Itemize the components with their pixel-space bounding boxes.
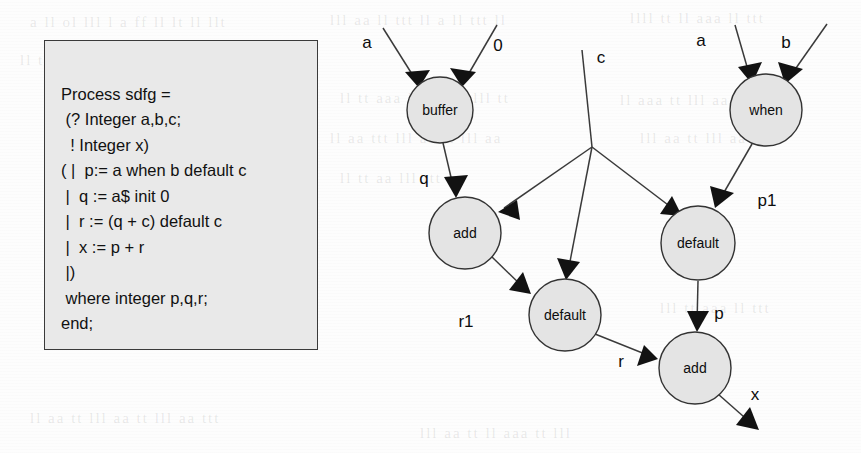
label-input-b-when: b [781, 33, 790, 52]
node-default-middle[interactable]: default [529, 279, 601, 351]
label-signal-q: q [419, 169, 428, 188]
edge-buffer-to-add1 [443, 143, 468, 198]
edge-input-a-to-buffer [383, 28, 430, 88]
edge-default1-to-add2 [687, 281, 709, 332]
edge-c-to-add1 [498, 147, 592, 220]
edge-when-to-default1 [710, 144, 752, 208]
edge-add1-to-default2 [492, 257, 531, 294]
node-add-lower[interactable]: add [659, 332, 731, 404]
edge-input-c-trunk [582, 50, 592, 147]
node-add-upper[interactable]: add [429, 197, 501, 269]
node-buffer-label: buffer [422, 102, 458, 118]
node-add-lower-label: add [683, 360, 706, 376]
node-default-middle-label: default [544, 307, 586, 323]
label-signal-p: p [714, 304, 723, 323]
node-buffer[interactable]: buffer [407, 77, 473, 143]
dataflow-graph: buffer when add default default add a 0 … [0, 0, 861, 453]
label-input-a-buffer: a [362, 33, 372, 52]
node-default-right-label: default [677, 235, 719, 251]
label-input-a-when: a [696, 31, 706, 50]
node-default-right[interactable]: default [661, 206, 735, 280]
node-add-upper-label: add [453, 225, 476, 241]
node-when-label: when [748, 102, 782, 118]
node-when[interactable]: when [730, 74, 802, 146]
label-signal-p1: p1 [758, 191, 777, 210]
label-signal-r: r [618, 352, 624, 371]
label-input-zero: 0 [493, 36, 502, 55]
edge-default2-to-add2 [595, 334, 658, 366]
label-signal-r1: r1 [458, 312, 473, 331]
page-root: a ll ol lll l a ff ll lt ll lltlll aa ll… [0, 0, 861, 453]
label-input-c: c [597, 48, 606, 67]
edge-c-to-default1 [592, 147, 682, 216]
edge-input-0-to-buffer [450, 25, 497, 87]
label-output-x: x [751, 385, 760, 404]
